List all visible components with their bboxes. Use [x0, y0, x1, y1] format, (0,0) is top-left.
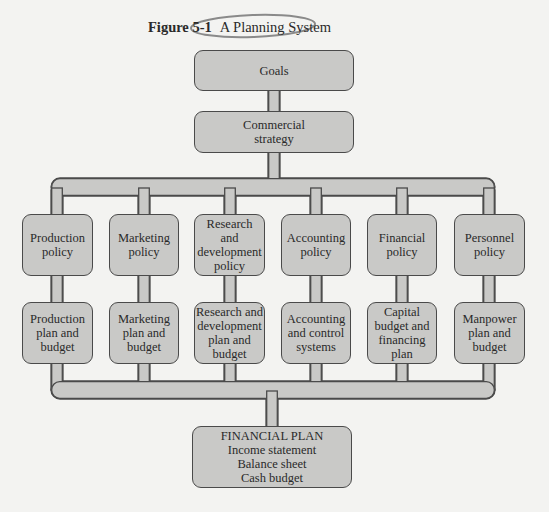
accounting-policy-box: Accounting policy	[281, 214, 351, 276]
box-label-line: policy	[474, 245, 505, 259]
marketing-plan-box: Marketing plan and budget	[109, 302, 179, 364]
box-label-line: Financial	[379, 231, 426, 245]
box-label-line: Accounting	[287, 312, 345, 326]
financial-plan-item: Balance sheet	[237, 457, 306, 471]
production-plan-box: Production plan and budget	[22, 302, 93, 364]
box-label-line: plan	[391, 347, 413, 361]
goals-label: Goals	[259, 64, 288, 78]
box-label-line: Manpower	[462, 312, 516, 326]
marketing-policy-box: Marketing policy	[109, 214, 179, 276]
box-label-line: plan and	[123, 326, 166, 340]
box-label-line: and control	[288, 326, 345, 340]
box-label-line: Accounting	[287, 231, 345, 245]
research-development-plan-box: Research and development plan and budget	[194, 302, 265, 364]
box-label-line: budget	[40, 340, 74, 354]
box-label-line: policy	[300, 245, 331, 259]
capital-budget-box: Capital budget and financing plan	[367, 302, 437, 364]
box-label-line: policy	[42, 245, 73, 259]
financial-policy-box: Financial policy	[367, 214, 437, 276]
strategy-label-line: strategy	[254, 132, 294, 146]
figure-caption: Figure 5-1A Planning System	[148, 19, 331, 36]
box-label-line: Capital	[384, 305, 420, 319]
box-label-line: systems	[296, 340, 336, 354]
financial-plan-box: FINANCIAL PLAN Income statement Balance …	[192, 426, 352, 488]
box-label-line: development	[197, 319, 262, 333]
financial-plan-heading: FINANCIAL PLAN	[221, 429, 324, 443]
box-label-line: Personnel	[465, 231, 514, 245]
financial-plan-item: Cash budget	[241, 471, 303, 485]
figure-number: Figure 5-1	[148, 19, 212, 35]
box-label-line: budget	[472, 340, 506, 354]
box-label-line: Production	[30, 312, 85, 326]
goals-box: Goals	[194, 50, 354, 91]
box-label-line: Marketing	[118, 312, 170, 326]
research-development-policy-box: Research and development policy	[194, 214, 265, 276]
box-label-line: budget	[212, 347, 246, 361]
connector-fill	[52, 179, 495, 196]
box-label-line: plan and	[36, 326, 79, 340]
figure-title: A Planning System	[220, 19, 331, 35]
accounting-systems-box: Accounting and control systems	[281, 302, 351, 364]
box-label-line: policy	[128, 245, 159, 259]
financial-plan-item: Income statement	[228, 443, 317, 457]
box-label-line: budget	[127, 340, 161, 354]
production-policy-box: Production policy	[22, 214, 93, 276]
strategy-label-line: Commercial	[243, 118, 305, 132]
box-label-line: Marketing	[118, 231, 170, 245]
manpower-plan-box: Manpower plan and budget	[454, 302, 525, 364]
box-label-line: development	[197, 245, 262, 259]
box-label-line: Research and	[196, 305, 263, 319]
box-label-line: plan and	[208, 333, 251, 347]
box-label-line: Research	[207, 217, 253, 231]
box-label-line: policy	[386, 245, 417, 259]
box-label-line: budget and	[374, 319, 429, 333]
box-label-line: and	[220, 231, 238, 245]
box-label-line: plan and	[468, 326, 511, 340]
box-label-line: financing	[378, 333, 425, 347]
commercial-strategy-box: Commercial strategy	[194, 111, 354, 153]
box-label-line: policy	[214, 259, 245, 273]
box-label-line: Production	[30, 231, 85, 245]
personnel-policy-box: Personnel policy	[454, 214, 525, 276]
